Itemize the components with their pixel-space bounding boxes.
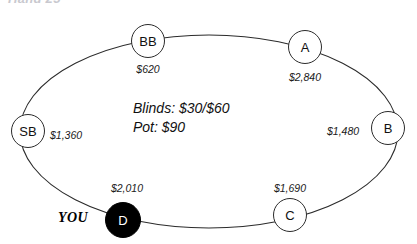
seat-sb-label: SB (19, 125, 36, 138)
seat-d-label: D (118, 214, 127, 227)
stack-bb: $620 (136, 64, 159, 75)
seat-sb[interactable]: SB (11, 114, 45, 148)
stack-a: $2,840 (289, 72, 321, 83)
seat-b[interactable]: B (371, 111, 405, 145)
stack-d: $2,010 (111, 183, 143, 194)
poker-table-diagram: Hand 25 BB $620 A $2,840 B $1,480 C $1,6… (0, 0, 417, 244)
seat-d[interactable]: D (105, 202, 141, 238)
seat-a[interactable]: A (288, 30, 322, 64)
stack-sb: $1,360 (50, 130, 82, 141)
seat-c[interactable]: C (273, 198, 307, 232)
stack-b: $1,480 (327, 126, 359, 137)
seat-b-label: B (384, 122, 393, 135)
table-info-block: Blinds: $30/$60 Pot: $90 (133, 99, 230, 137)
seat-bb[interactable]: BB (131, 24, 165, 58)
stack-c: $1,690 (274, 183, 306, 194)
seat-a-label: A (301, 41, 310, 54)
seat-c-label: C (285, 209, 294, 222)
blinds-label: Blinds: $30/$60 (133, 99, 230, 118)
seat-bb-label: BB (139, 35, 156, 48)
hero-you-marker: YOU (58, 210, 88, 226)
pot-label: Pot: $90 (133, 118, 230, 137)
